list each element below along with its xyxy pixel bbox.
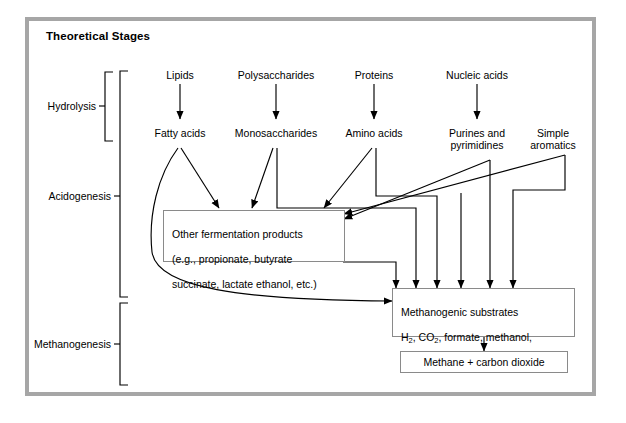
bracket-acidogenesis (120, 71, 128, 297)
fermentation-line-3: succinate, lactate ethanol, etc.) (172, 278, 337, 290)
methanogenic-co: , CO (413, 331, 435, 343)
box-other-fermentation-products: Other fermentation products (e.g., propi… (163, 210, 345, 262)
arrow-aromatics-fermentation (344, 155, 565, 214)
methanogenic-line-1: Methanogenic substrates (401, 306, 567, 318)
arrow-monosaccharides-fermentation (252, 148, 273, 208)
node-fatty-acids: Fatty acids (155, 128, 206, 140)
fermentation-line-2: (e.g., propionate, butyrate (172, 253, 337, 265)
node-polysaccharides: Polysaccharides (238, 70, 314, 82)
arrow-aromatics-methanogenic (513, 155, 565, 288)
methanogenic-h: H (401, 331, 409, 343)
arrow-fattyacids-fermentation (181, 148, 219, 208)
node-proteins: Proteins (355, 70, 394, 82)
stage-label-acidogenesis: Acidogenesis (0, 190, 111, 202)
methanogenic-rest: , formate, methanol, (439, 331, 532, 343)
node-nucleic-acids: Nucleic acids (446, 70, 508, 82)
bracket-hydrolysis (105, 72, 113, 141)
node-simple-aromatics: Simple aromatics (530, 128, 576, 151)
arrow-purines-fermentation (344, 160, 490, 219)
node-monosaccharides: Monosaccharides (235, 128, 317, 140)
arrow-fermentation-methanogenic (343, 262, 396, 288)
figure-canvas: Theoretical Stages (0, 0, 626, 423)
methanogenic-h-sub: 2 (409, 336, 413, 345)
node-amino-acids: Amino acids (345, 128, 402, 140)
box-methane-carbon-dioxide: Methane + carbon dioxide (400, 351, 568, 373)
node-purines-pyrimidines: Purines and pyrimidines (449, 128, 505, 151)
methanogenic-co-sub: 2 (434, 336, 438, 345)
box-methanogenic-substrates: Methanogenic substrates H2, CO2, formate… (392, 288, 575, 337)
fermentation-line-1: Other fermentation products (172, 228, 337, 240)
arrow-aminoacids-fermentation (324, 148, 372, 208)
methanogenic-line-2: H2, CO2, formate, methanol, (401, 331, 567, 345)
arrow-aminoacids-methanogenic (376, 148, 437, 288)
bracket-methanogenesis (120, 303, 128, 385)
stage-label-hydrolysis: Hydrolysis (0, 100, 96, 112)
stage-label-methanogenesis: Methanogenesis (0, 338, 111, 350)
node-lipids: Lipids (166, 70, 193, 82)
